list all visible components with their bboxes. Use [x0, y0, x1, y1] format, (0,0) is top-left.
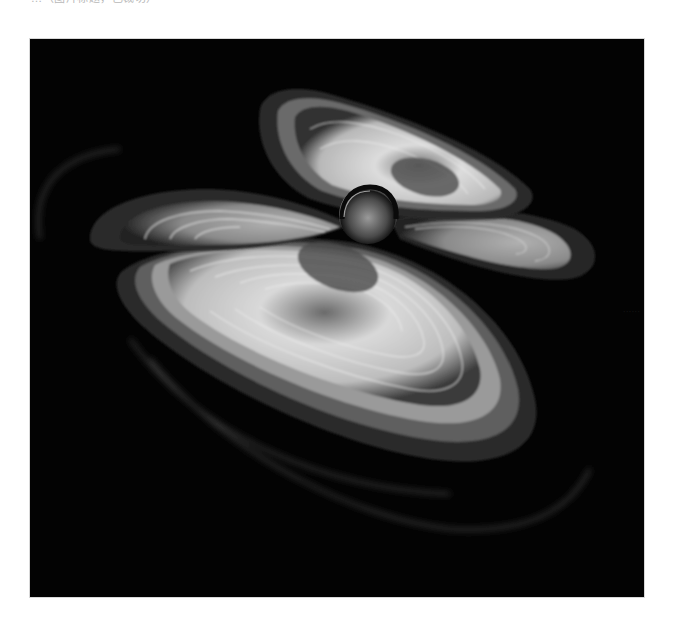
watermark-text: ······ [623, 307, 640, 317]
lower-lobe [117, 232, 537, 462]
wave-visualization [30, 39, 644, 597]
central-sphere [339, 186, 397, 244]
upper-lobe [259, 89, 533, 219]
figure-caption: …（图片标题，已裁切） [31, 0, 158, 5]
figure-panel: ······ [30, 39, 644, 597]
